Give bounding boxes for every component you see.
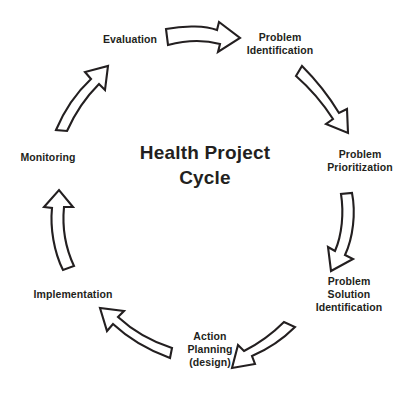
stage-label-evaluation-line-1: Evaluation bbox=[98, 33, 162, 46]
stage-label-problem-solution-identification-line-2: Solution bbox=[300, 288, 398, 301]
stage-label-problem-solution-identification-line-3: Identification bbox=[300, 301, 398, 314]
page-title: Health Project Cycle bbox=[110, 140, 300, 190]
stage-label-problem-identification-line-1: Problem bbox=[238, 31, 322, 44]
stage-label-implementation: Implementation bbox=[22, 288, 124, 301]
stage-label-problem-prioritization: Problem Prioritization bbox=[318, 148, 402, 174]
stage-label-problem-solution-identification-line-1: Problem bbox=[300, 275, 398, 288]
page-title-line-1: Health Project bbox=[110, 140, 300, 165]
arrow-monitoring-to-evaluation-icon bbox=[56, 66, 108, 131]
arrow-problem-identification-to-problem-prioritization-icon bbox=[296, 66, 348, 133]
arrow-problem-prioritization-to-problem-solution-identification-icon bbox=[328, 193, 354, 271]
arrow-evaluation-to-problem-identification-icon bbox=[166, 22, 240, 52]
stage-label-problem-identification-line-2: Identification bbox=[238, 44, 322, 57]
page-title-line-2: Cycle bbox=[110, 165, 300, 190]
stage-label-monitoring: Monitoring bbox=[10, 151, 86, 164]
stage-label-problem-prioritization-line-1: Problem bbox=[318, 148, 402, 161]
stage-label-problem-solution-identification: Problem Solution Identification bbox=[300, 275, 398, 314]
stage-label-evaluation: Evaluation bbox=[98, 33, 162, 46]
stage-label-problem-prioritization-line-2: Prioritization bbox=[318, 161, 402, 174]
stage-label-action-planning: Action Planning (design) bbox=[176, 330, 244, 369]
stage-label-action-planning-line-3: (design) bbox=[176, 356, 244, 369]
stage-label-action-planning-line-1: Action bbox=[176, 330, 244, 343]
arrow-action-planning-to-implementation-icon bbox=[100, 308, 172, 358]
stage-label-action-planning-line-2: Planning bbox=[176, 343, 244, 356]
stage-label-monitoring-line-1: Monitoring bbox=[10, 151, 86, 164]
health-project-cycle-diagram: Health Project Cycle Evaluation Problem … bbox=[0, 0, 405, 400]
stage-label-problem-identification: Problem Identification bbox=[238, 31, 322, 57]
arrow-implementation-to-monitoring-icon bbox=[44, 190, 74, 270]
stage-label-implementation-line-1: Implementation bbox=[22, 288, 124, 301]
